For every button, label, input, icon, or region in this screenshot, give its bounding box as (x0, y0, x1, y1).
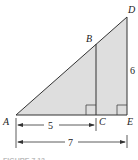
arrow-left-icon (17, 140, 23, 144)
label-D: D (127, 4, 136, 15)
label-B: B (86, 33, 92, 44)
triangle-ADE (16, 17, 127, 115)
arrow-right-icon (120, 140, 126, 144)
similar-triangles-diagram: A B C D E 6 5 7 FIGURE 7.13 (0, 0, 138, 160)
label-C: C (99, 116, 106, 127)
dimension-AC: 5 (48, 120, 53, 131)
label-A: A (2, 116, 10, 127)
label-E: E (126, 116, 133, 127)
arrow-right-icon (89, 123, 95, 127)
dimension-DE: 6 (130, 65, 135, 76)
arrow-left-icon (17, 123, 23, 127)
figure-caption: FIGURE 7.13 (3, 157, 45, 160)
dimension-AE: 7 (68, 137, 73, 148)
